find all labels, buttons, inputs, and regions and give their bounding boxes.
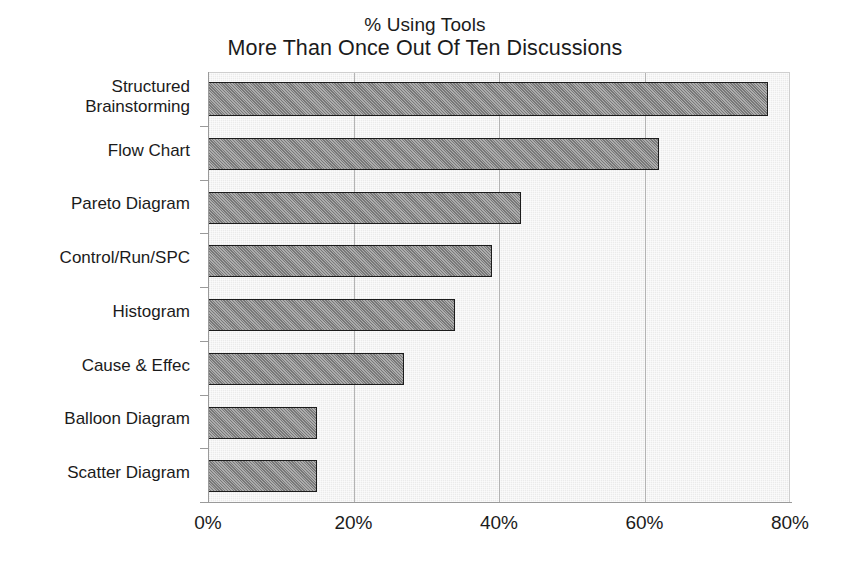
x-axis-tick-label: 80% <box>745 512 835 534</box>
bar-row <box>208 449 789 503</box>
bar[interactable] <box>208 82 768 116</box>
y-axis-label-line: Control/Run/SPC <box>0 248 190 268</box>
y-axis-label-line: Histogram <box>0 302 190 322</box>
y-axis-tick <box>200 126 209 127</box>
y-axis-label-line: Cause & Effec <box>0 356 190 376</box>
bar-row <box>208 288 789 342</box>
bar[interactable] <box>208 460 317 492</box>
y-axis-label: Control/Run/SPC <box>0 248 190 268</box>
y-axis-label: StructuredBrainstorming <box>0 77 190 116</box>
y-axis-label-line: Balloon Diagram <box>0 409 190 429</box>
bar[interactable] <box>208 353 404 385</box>
y-axis-label: Histogram <box>0 302 190 322</box>
y-axis-label-line: Scatter Diagram <box>0 463 190 483</box>
bar-row <box>208 342 789 396</box>
y-axis-labels: StructuredBrainstormingFlow ChartPareto … <box>0 72 200 502</box>
bar[interactable] <box>208 245 492 277</box>
bar-row <box>208 396 789 450</box>
x-axis-tick-label: 0% <box>163 512 253 534</box>
y-axis-tick <box>200 448 209 449</box>
chart-title-line-1: % Using Tools <box>0 14 850 36</box>
chart-title: % Using Tools More Than Once Out Of Ten … <box>0 14 850 62</box>
y-axis-tick <box>200 341 209 342</box>
y-axis-label: Pareto Diagram <box>0 194 190 214</box>
y-axis-tick <box>200 233 209 234</box>
bar[interactable] <box>208 299 455 331</box>
x-axis-tick-label: 40% <box>454 512 544 534</box>
y-axis-tick <box>200 395 209 396</box>
bar-row <box>208 127 789 181</box>
bar-row <box>208 181 789 235</box>
bar[interactable] <box>208 192 521 224</box>
y-axis-label-line: Structured <box>0 77 190 97</box>
x-axis-line <box>200 502 792 503</box>
x-axis-tick-label: 20% <box>309 512 399 534</box>
y-axis-label: Scatter Diagram <box>0 463 190 483</box>
y-axis-tick <box>200 180 209 181</box>
x-axis-tick-labels: 0%20%40%60%80% <box>0 512 850 552</box>
chart-title-line-2: More Than Once Out Of Ten Discussions <box>0 36 850 61</box>
bar-row <box>208 73 789 127</box>
bar-row <box>208 234 789 288</box>
y-axis-label-line: Flow Chart <box>0 141 190 161</box>
y-axis-label-line: Brainstorming <box>0 97 190 117</box>
y-axis-label: Cause & Effec <box>0 356 190 376</box>
bar[interactable] <box>208 138 659 170</box>
y-axis-label: Flow Chart <box>0 141 190 161</box>
bar[interactable] <box>208 407 317 439</box>
plot-area <box>208 72 790 502</box>
bar-chart-figure: % Using Tools More Than Once Out Of Ten … <box>0 0 850 581</box>
y-axis-tick <box>200 287 209 288</box>
x-axis-tick-label: 60% <box>600 512 690 534</box>
y-axis-label-line: Pareto Diagram <box>0 194 190 214</box>
y-axis-label: Balloon Diagram <box>0 409 190 429</box>
